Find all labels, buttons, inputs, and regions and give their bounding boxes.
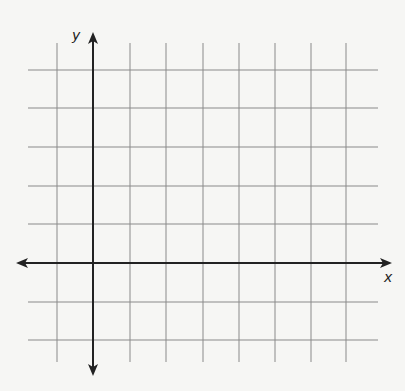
x-axis-label: x	[383, 269, 393, 285]
y-axis	[88, 32, 98, 376]
vertical-grid-lines	[57, 43, 346, 362]
y-axis-label: y	[71, 27, 81, 43]
coordinate-grid: y x	[0, 0, 405, 391]
x-axis	[16, 258, 392, 268]
